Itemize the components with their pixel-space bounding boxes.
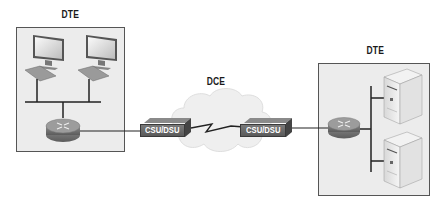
router-icon bbox=[328, 118, 360, 139]
lan-bus bbox=[360, 86, 385, 172]
csu-dsu-left-label: CSU/DSU bbox=[145, 125, 179, 136]
csu-dsu-right-front: CSU/DSU bbox=[240, 124, 286, 137]
network-diagram-canvas bbox=[0, 0, 447, 209]
csu-dsu-left-front: CSU/DSU bbox=[140, 124, 185, 137]
lan-bus bbox=[25, 79, 101, 118]
workstation-icon bbox=[78, 35, 117, 81]
csu-dsu-right-label: CSU/DSU bbox=[246, 125, 280, 136]
router-icon bbox=[46, 119, 80, 142]
server-icon bbox=[384, 69, 422, 124]
server-icon bbox=[384, 132, 422, 188]
csu-dsu-left: CSU/DSU bbox=[140, 122, 191, 137]
csu-dsu-right: CSU/DSU bbox=[240, 122, 292, 137]
workstation-icon bbox=[25, 35, 64, 81]
